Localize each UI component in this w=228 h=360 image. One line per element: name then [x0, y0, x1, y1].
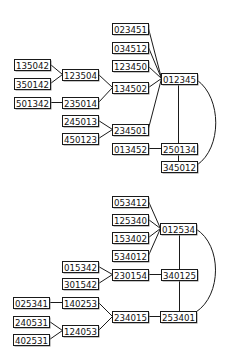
node-234015: 234015: [113, 312, 150, 324]
node-label: 123450: [114, 61, 147, 72]
node-025341: 025341: [14, 298, 51, 310]
node-label: 501342: [16, 98, 49, 109]
node-350142: 350142: [15, 79, 52, 91]
node-label: 034512: [114, 43, 147, 54]
node-label: 350142: [16, 79, 49, 90]
edge-450123-234501: [99, 130, 113, 139]
node-012534: 012534: [161, 224, 198, 236]
node-012345: 012345: [162, 74, 199, 86]
node-label: 124053: [64, 326, 97, 337]
graph-bottom: 0534121253401534025340120125340153423015…: [14, 197, 216, 347]
node-label: 301542: [64, 279, 97, 290]
node-135042: 135042: [15, 60, 52, 72]
node-label: 234501: [114, 125, 147, 136]
node-label: 134502: [114, 83, 147, 94]
permutation-graph-diagram: 0234510345121234500123451350423501421235…: [0, 0, 228, 360]
edge-012345-345012: [197, 80, 216, 165]
node-label: 345012: [163, 162, 196, 173]
edge-140253-234015: [99, 303, 113, 317]
node-034512: 034512: [113, 43, 150, 55]
node-label: 153402: [114, 233, 147, 244]
node-label: 450123: [64, 134, 97, 145]
node-234501: 234501: [113, 125, 150, 137]
node-013452: 013452: [113, 144, 150, 156]
node-label: 135042: [16, 60, 49, 71]
node-label: 402531: [15, 335, 48, 346]
node-label: 015342: [64, 262, 97, 273]
node-340125: 340125: [162, 270, 199, 282]
node-250134: 250134: [162, 144, 199, 156]
node-label: 230154: [114, 270, 147, 281]
edge-124053-234015: [99, 317, 113, 331]
node-label: 340125: [163, 270, 196, 281]
edge-135042-123504: [51, 65, 63, 75]
edge-350142-123504: [51, 75, 63, 84]
edge-123504-134502: [99, 75, 113, 88]
edge-015342-230154: [99, 267, 113, 275]
node-label: 012534: [162, 224, 195, 235]
node-label: 125340: [114, 215, 147, 226]
node-label: 253401: [162, 312, 195, 323]
node-235014: 235014: [63, 98, 100, 110]
node-301542: 301542: [63, 279, 100, 291]
node-label: 140253: [64, 298, 97, 309]
edge-301542-230154: [99, 275, 113, 284]
node-023451: 023451: [113, 24, 150, 36]
edge-240531-124053: [50, 322, 63, 331]
edge-012534-253401: [196, 229, 216, 312]
node-501342: 501342: [15, 98, 52, 110]
node-label: 534012: [114, 251, 147, 262]
node-label: 235014: [64, 98, 97, 109]
node-label: 053412: [114, 197, 147, 208]
node-053412: 053412: [113, 197, 150, 209]
edge-245013-234501: [99, 121, 113, 130]
node-123504: 123504: [63, 70, 100, 82]
node-124053: 124053: [63, 326, 100, 338]
node-label: 023451: [114, 24, 147, 35]
node-402531: 402531: [14, 335, 51, 347]
graph-bottom-nodes: 0534121253401534025340120125340153423015…: [14, 197, 199, 347]
graph-top: 0234510345121234500123451350423501421235…: [15, 24, 216, 174]
edge-023451-012345: [149, 29, 162, 79]
node-140253: 140253: [63, 298, 100, 310]
node-240531: 240531: [14, 317, 51, 329]
node-label: 123504: [64, 70, 97, 81]
node-label: 240531: [15, 317, 48, 328]
node-label: 012345: [163, 74, 196, 85]
node-253401: 253401: [161, 312, 198, 324]
node-534012: 534012: [113, 251, 150, 263]
node-153402: 153402: [113, 233, 150, 245]
node-134502: 134502: [113, 83, 150, 95]
node-125340: 125340: [113, 215, 150, 227]
node-label: 013452: [114, 144, 147, 155]
node-450123: 450123: [63, 134, 100, 146]
node-015342: 015342: [63, 262, 100, 274]
node-label: 250134: [163, 144, 196, 155]
edge-235014-134502: [99, 88, 113, 103]
node-label: 245013: [64, 116, 97, 127]
graph-top-nodes: 0234510345121234500123451350423501421235…: [15, 24, 199, 174]
node-245013: 245013: [63, 116, 100, 128]
node-230154: 230154: [113, 270, 150, 282]
node-label: 025341: [15, 298, 48, 309]
edge-402531-124053: [50, 331, 63, 340]
node-345012: 345012: [162, 162, 199, 174]
node-label: 234015: [114, 312, 147, 323]
node-123450: 123450: [113, 61, 150, 73]
